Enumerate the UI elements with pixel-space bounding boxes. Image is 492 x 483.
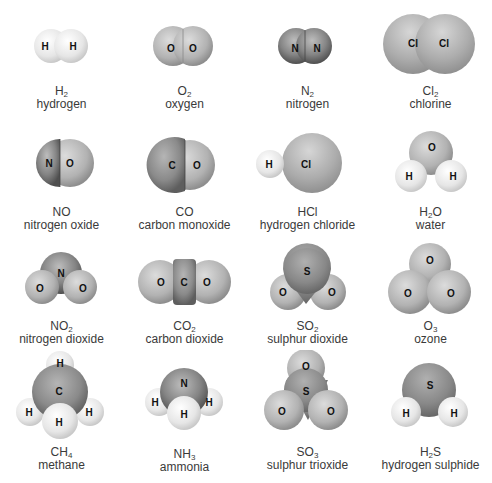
molecule-o3: OOO O3 ozone (369, 240, 492, 350)
molecule-name: oxygen (123, 98, 246, 111)
svg-text:O: O (157, 277, 165, 288)
svg-text:N: N (291, 43, 298, 54)
molecule-name: ammonia (123, 461, 246, 474)
molecule-name: hydrogen chloride (246, 219, 369, 232)
svg-text:H: H (56, 358, 63, 369)
molecule-name: sulphur trioxide (246, 459, 369, 472)
molecule-name: methane (0, 459, 123, 472)
hcl-model-icon: HCl (246, 120, 369, 200)
svg-text:H: H (265, 159, 272, 170)
svg-text:Cl: Cl (408, 38, 418, 49)
svg-text:H: H (69, 41, 76, 52)
so2-model-icon: SOO (246, 240, 369, 320)
svg-text:O: O (426, 255, 434, 266)
svg-text:N: N (180, 378, 187, 389)
svg-text:O: O (404, 288, 412, 299)
svg-text:Cl: Cl (301, 159, 311, 170)
molecule-h2o: OHH H2O water (369, 120, 492, 240)
svg-text:S: S (303, 386, 310, 397)
svg-text:C: C (55, 386, 62, 397)
svg-text:O: O (167, 43, 175, 54)
svg-text:C: C (168, 160, 175, 171)
svg-text:H: H (205, 397, 212, 408)
molecule-name: ozone (369, 333, 492, 346)
svg-text:O: O (278, 406, 286, 417)
h2-model-icon: HH (0, 0, 123, 80)
svg-text:O: O (328, 287, 336, 298)
svg-text:N: N (313, 43, 320, 54)
svg-text:C: C (180, 277, 187, 288)
svg-text:H: H (449, 171, 456, 182)
molecule-ch4: HC HHH CH4 methane (0, 350, 123, 483)
molecule-name: chlorine (369, 98, 492, 111)
svg-text:H: H (450, 408, 457, 419)
svg-text:O: O (66, 158, 74, 169)
molecule-cl2: ClCl Cl2 chlorine (369, 0, 492, 120)
svg-text:N: N (45, 158, 52, 169)
molecule-name: carbon monoxide (123, 219, 246, 232)
molecule-name: nitrogen (246, 98, 369, 111)
molecule-h2s: SHH H2S hydrogen sulphide (369, 350, 492, 483)
svg-text:H: H (41, 41, 48, 52)
molecule-co: CO CO carbon monoxide (123, 120, 246, 240)
molecule-name: nitrogen oxide (0, 219, 123, 232)
molecule-name: hydrogen sulphide (369, 459, 492, 472)
molecule-nh3: NH HH NH3 ammonia (123, 350, 246, 483)
co-model-icon: CO (123, 120, 246, 200)
svg-text:S: S (304, 266, 311, 277)
svg-text:H: H (55, 417, 62, 428)
molecule-so2: SOO SO2 sulphur dioxide (246, 240, 369, 350)
molecule-n2: NN N2 nitrogen (246, 0, 369, 120)
svg-text:O: O (447, 288, 455, 299)
svg-text:Cl: Cl (439, 38, 449, 49)
svg-text:N: N (57, 268, 64, 279)
molecule-no: NO NO nitrogen oxide (0, 120, 123, 240)
molecule-name: hydrogen (0, 98, 123, 111)
so3-model-icon: OS OO (246, 350, 369, 440)
nh3-model-icon: NH HH (123, 350, 246, 440)
molecule-name: nitrogen dioxide (0, 333, 123, 346)
ch4-model-icon: HC HHH (0, 350, 123, 440)
molecule-co2: OCO CO2 carbon dioxide (123, 240, 246, 350)
h2o-model-icon: OHH (369, 120, 492, 200)
svg-text:O: O (327, 406, 335, 417)
molecule-so3: OS OO SO3 sulphur trioxide (246, 350, 369, 483)
molecule-name: water (369, 219, 492, 232)
no-model-icon: NO (0, 120, 123, 200)
molecule-name: sulphur dioxide (246, 333, 369, 346)
svg-text:O: O (36, 283, 44, 294)
svg-text:O: O (193, 160, 201, 171)
svg-text:H: H (85, 407, 92, 418)
molecule-hcl: HCl HCl hydrogen chloride (246, 120, 369, 240)
svg-text:H: H (151, 397, 158, 408)
svg-text:O: O (279, 287, 287, 298)
svg-text:S: S (427, 380, 434, 391)
svg-text:H: H (402, 408, 409, 419)
co2-model-icon: OCO (123, 240, 246, 320)
svg-text:O: O (203, 277, 211, 288)
svg-text:O: O (189, 43, 197, 54)
cl2-model-icon: ClCl (369, 0, 492, 80)
h2s-model-icon: SHH (369, 350, 492, 440)
n2-model-icon: NN (246, 0, 369, 80)
molecule-name: carbon dioxide (123, 333, 246, 346)
molecule-no2: NOO NO2 nitrogen dioxide (0, 240, 123, 350)
molecule-o2: OO O2 oxygen (123, 0, 246, 120)
o3-model-icon: OOO (369, 240, 492, 320)
molecule-h2: HH H2 hydrogen (0, 0, 123, 120)
svg-text:O: O (302, 361, 310, 372)
svg-text:O: O (79, 283, 87, 294)
svg-text:H: H (180, 409, 187, 420)
no2-model-icon: NOO (0, 240, 123, 320)
svg-text:H: H (25, 407, 32, 418)
o2-model-icon: OO (123, 0, 246, 80)
svg-text:O: O (428, 142, 436, 153)
svg-text:H: H (405, 171, 412, 182)
